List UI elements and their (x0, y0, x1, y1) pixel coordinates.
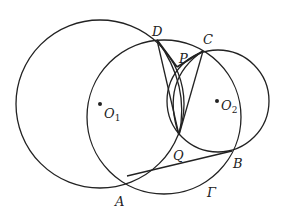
label-a: A (114, 194, 124, 209)
geometry-diagram: D C P Q B A Γ O1 O2 (0, 0, 283, 213)
diagram-svg: D C P Q B A Γ O1 O2 (0, 0, 283, 213)
center-dot-o2 (215, 99, 219, 103)
label-o2: O2 (221, 98, 237, 115)
label-o1: O1 (104, 106, 120, 123)
label-c: C (203, 32, 213, 47)
label-p: P (178, 51, 188, 66)
arc-cpq (173, 51, 203, 135)
label-b: B (232, 156, 243, 171)
label-q: Q (173, 148, 184, 163)
center-dot-o1 (98, 102, 102, 106)
label-d: D (151, 24, 163, 39)
label-gamma: Γ (206, 185, 217, 200)
